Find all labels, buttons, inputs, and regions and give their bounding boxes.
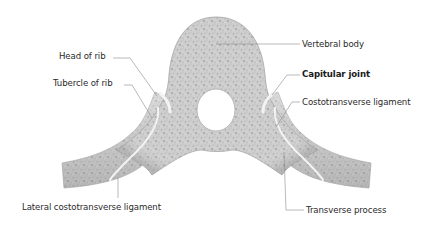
vertebra-illustration — [0, 0, 433, 227]
vertebral-foramen — [197, 89, 235, 131]
vertebra — [116, 17, 318, 175]
label-transverse-process: Transverse process — [306, 205, 386, 215]
costovertebral-diagram: Head of rib Tubercle of rib Lateral cost… — [0, 0, 433, 227]
label-lateral-costotransverse-ligament: Lateral costotransverse ligament — [22, 202, 161, 212]
label-head-of-rib: Head of rib — [59, 51, 106, 61]
label-tubercle-of-rib: Tubercle of rib — [53, 78, 113, 88]
label-capitular-joint: Capitular joint — [302, 69, 370, 79]
label-costotransverse-ligament: Costotransverse ligament — [302, 97, 410, 107]
label-vertebral-body: Vertebral body — [302, 39, 364, 49]
